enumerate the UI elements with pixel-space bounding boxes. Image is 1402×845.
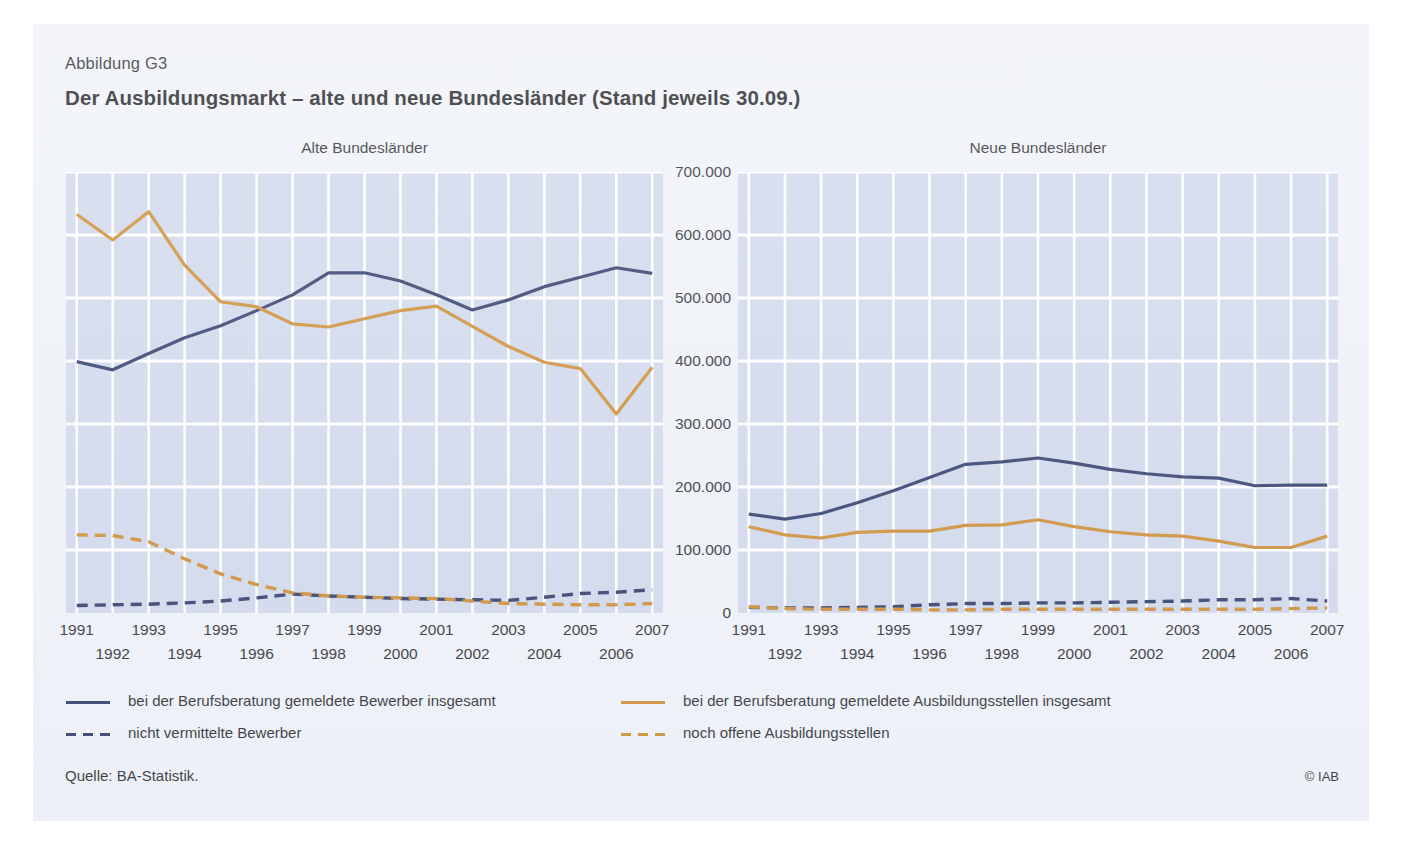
x-axis-tick: 1999 [1021,621,1055,639]
x-axis-tick: 1995 [203,621,237,639]
x-axis-tick: 1993 [131,621,165,639]
legend-swatch-icon [66,733,110,736]
x-axis-tick: 1992 [768,645,802,663]
y-axis-tick: 100.000 [675,541,731,559]
x-axis-tick: 2001 [1093,621,1127,639]
legend-label: noch offene Ausbildungsstellen [683,724,890,741]
chart-plot-alte-bundeslaender [66,172,663,613]
legend-label: bei der Berufsberatung gemeldete Bewerbe… [128,692,496,709]
x-axis-tick: 1998 [985,645,1019,663]
legend-item: bei der Berufsberatung gemeldete Bewerbe… [66,692,496,709]
legend-swatch-icon [66,701,110,704]
y-axis-tick: 600.000 [675,226,731,244]
figure-title: Der Ausbildungsmarkt – alte und neue Bun… [65,86,801,110]
x-axis-tick: 1991 [59,621,93,639]
x-axis-right: 1991199219931994199519961997199819992000… [738,615,1338,677]
copyright-note: © IAB [1305,769,1339,784]
panel-title-right: Neue Bundesländer [738,139,1338,157]
x-axis-tick: 2000 [1057,645,1091,663]
x-axis-tick: 2002 [1129,645,1163,663]
x-axis-tick: 1993 [804,621,838,639]
x-axis-tick: 2004 [527,645,561,663]
legend-label: bei der Berufsberatung gemeldete Ausbild… [683,692,1111,709]
figure-panel: Abbildung G3 Der Ausbildungsmarkt – alte… [33,24,1369,821]
x-axis-tick: 2007 [635,621,669,639]
x-axis-tick: 2006 [1274,645,1308,663]
chart-legend: bei der Berufsberatung gemeldete Bewerbe… [66,692,1336,754]
y-axis-tick: 700.000 [675,163,731,181]
y-axis-tick: 200.000 [675,478,731,496]
x-axis-tick: 1995 [876,621,910,639]
x-axis-tick: 2003 [491,621,525,639]
x-axis-tick: 1997 [948,621,982,639]
y-axis-tick: 400.000 [675,352,731,370]
y-axis-tick: 0 [722,604,731,622]
x-axis-tick: 2002 [455,645,489,663]
legend-label: nicht vermittelte Bewerber [128,724,301,741]
y-axis-tick: 300.000 [675,415,731,433]
x-axis-tick: 1994 [840,645,874,663]
x-axis-tick: 2001 [419,621,453,639]
legend-item: nicht vermittelte Bewerber [66,724,301,741]
figure-number: Abbildung G3 [65,54,167,73]
x-axis-tick: 1994 [167,645,201,663]
legend-swatch-icon [621,733,665,736]
x-axis-tick: 1998 [311,645,345,663]
legend-swatch-icon [621,701,665,704]
chart-plot-neue-bundeslaender [738,172,1338,613]
legend-item: bei der Berufsberatung gemeldete Ausbild… [621,692,1111,709]
x-axis-left: 1991199219931994199519961997199819992000… [66,615,663,677]
source-note: Quelle: BA-Statistik. [65,767,198,784]
x-axis-tick: 2005 [1238,621,1272,639]
y-axis-tick: 500.000 [675,289,731,307]
x-axis-tick: 1991 [732,621,766,639]
x-axis-tick: 1996 [239,645,273,663]
x-axis-tick: 2000 [383,645,417,663]
x-axis-tick: 2004 [1202,645,1236,663]
x-axis-tick: 2007 [1310,621,1344,639]
x-axis-tick: 1997 [275,621,309,639]
y-axis: 0100.000200.000300.000400.000500.000600.… [663,164,735,624]
panel-title-left: Alte Bundesländer [66,139,663,157]
legend-item: noch offene Ausbildungsstellen [621,724,890,741]
x-axis-tick: 1999 [347,621,381,639]
alte-svg [66,172,663,613]
x-axis-tick: 2003 [1165,621,1199,639]
x-axis-tick: 2005 [563,621,597,639]
x-axis-tick: 1992 [95,645,129,663]
x-axis-tick: 2006 [599,645,633,663]
neue-svg [738,172,1338,613]
x-axis-tick: 1996 [912,645,946,663]
